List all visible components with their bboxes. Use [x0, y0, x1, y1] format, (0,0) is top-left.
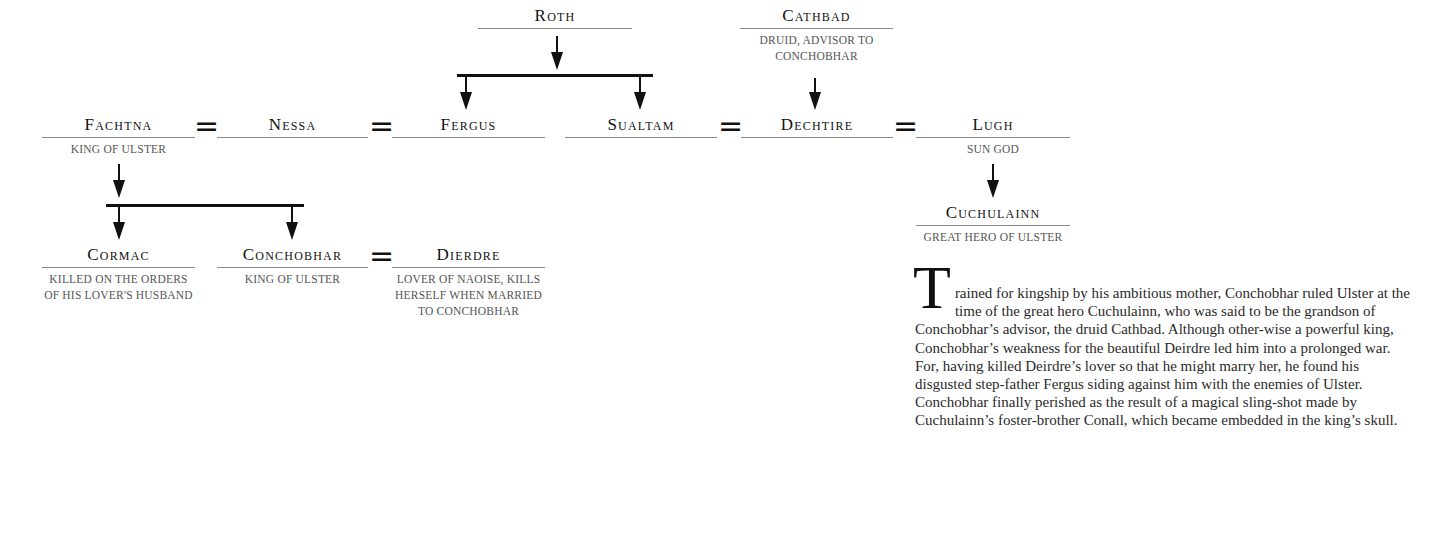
person-cuchulainn: Cuchulainn GREAT HERO OF ULSTER — [916, 203, 1070, 245]
person-description: GREAT HERO OF ULSTER — [916, 229, 1070, 245]
underline — [392, 137, 545, 138]
person-dechtire: Dechtire — [741, 115, 893, 138]
person-name: Dechtire — [741, 115, 893, 137]
marriage-symbol: = — [369, 116, 394, 136]
person-fachtna: Fachtna KING OF ULSTER — [42, 115, 195, 157]
arrow-down-icon — [113, 222, 125, 240]
marriage-symbol: = — [718, 116, 743, 136]
underline — [217, 267, 368, 268]
person-fergus: Fergus — [392, 115, 545, 138]
person-name: Cormac — [42, 245, 195, 267]
person-cormac: Cormac KILLED ON THE ORDERS OF HIS LOVER… — [42, 245, 195, 303]
person-name: Fachtna — [42, 115, 195, 137]
person-name: Nessa — [217, 115, 368, 137]
marriage-symbol: = — [369, 246, 394, 266]
marriage-symbol: = — [893, 116, 918, 136]
person-name: Cathbad — [740, 6, 893, 28]
first-line: rained for kingship by his ambitious mot… — [955, 285, 1333, 301]
underline — [478, 28, 632, 29]
drop-cap: T — [913, 264, 951, 304]
underline — [916, 137, 1070, 138]
underline — [42, 137, 195, 138]
arrow-down-icon — [551, 52, 563, 70]
person-conchobhar: Conchobhar KING OF ULSTER — [217, 245, 368, 287]
underline — [392, 267, 545, 268]
body-text: Ulster at the time of the great hero Cuc… — [915, 285, 1410, 428]
arrow-down-icon — [809, 92, 821, 110]
person-name: Dierdre — [392, 245, 545, 267]
person-description: DRUID, ADVISOR TO CONCHOBHAR — [740, 32, 893, 64]
person-description: KING OF ULSTER — [42, 141, 195, 157]
person-description: KILLED ON THE ORDERS OF HIS LOVER'S HUSB… — [42, 271, 195, 303]
person-roth: Roth — [478, 6, 632, 29]
person-sualtam: Sualtam — [565, 115, 717, 138]
description-paragraph: T rained for kingship by his ambitious m… — [915, 262, 1415, 430]
person-dierdre: Dierdre LOVER OF NAOISE, KILLS HERSELF W… — [392, 245, 545, 319]
sibling-bar — [106, 204, 304, 207]
person-cathbad: Cathbad DRUID, ADVISOR TO CONCHOBHAR — [740, 6, 893, 64]
arrow-down-icon — [460, 92, 472, 110]
person-name: Roth — [478, 6, 632, 28]
underline — [740, 28, 893, 29]
person-name: Sualtam — [565, 115, 717, 137]
underline — [217, 137, 368, 138]
person-name: Cuchulainn — [916, 203, 1070, 225]
person-name: Fergus — [392, 115, 545, 137]
underline — [916, 225, 1070, 226]
person-name: Lugh — [916, 115, 1070, 137]
person-description: SUN GOD — [916, 141, 1070, 157]
person-lugh: Lugh SUN GOD — [916, 115, 1070, 157]
person-name: Conchobhar — [217, 245, 368, 267]
person-nessa: Nessa — [217, 115, 368, 138]
person-description: KING OF ULSTER — [217, 271, 368, 287]
marriage-symbol: = — [194, 116, 219, 136]
sibling-bar — [457, 74, 653, 77]
arrow-down-icon — [987, 180, 999, 198]
underline — [565, 137, 717, 138]
underline — [741, 137, 893, 138]
arrow-down-icon — [286, 222, 298, 240]
arrow-down-icon — [113, 180, 125, 198]
arrow-down-icon — [634, 92, 646, 110]
underline — [42, 267, 195, 268]
person-description: LOVER OF NAOISE, KILLS HERSELF WHEN MARR… — [392, 271, 545, 319]
